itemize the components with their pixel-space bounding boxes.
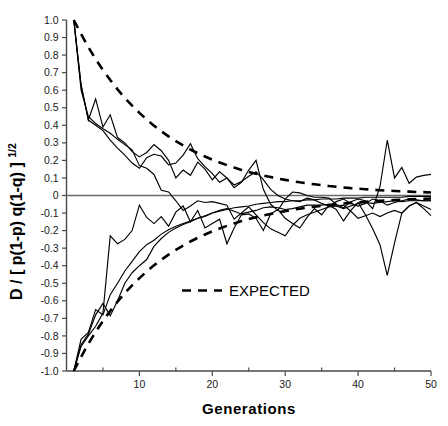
- y-tick-label: -0.8: [40, 330, 58, 342]
- x-axis-ticks: [103, 368, 431, 377]
- y-axis-label-text: D / [ p(1-p) q(1-q) ] 1/2: [6, 143, 25, 300]
- y-tick-label: 0.5: [44, 101, 59, 113]
- chart-plot-svg: 1.00.90.80.70.60.50.40.30.20.10-0.1-0.2-…: [0, 0, 448, 426]
- series-expected-upper: [74, 20, 431, 193]
- y-tick-label: -0.2: [40, 224, 58, 236]
- y-tick-label: 0.3: [44, 136, 59, 148]
- y-tick-label: -0.7: [40, 312, 58, 324]
- y-tick-label: 0.9: [44, 31, 59, 43]
- y-tick-label: -1.0: [40, 365, 58, 377]
- y-tick-label: 1.0: [44, 14, 59, 26]
- x-tick-label: 40: [352, 378, 364, 390]
- legend-label-expected: EXPECTED: [229, 282, 310, 299]
- y-axis-label-exponent: 1/2: [6, 143, 18, 158]
- series-replicate-3: [74, 20, 431, 206]
- y-tick-label: -0.6: [40, 294, 58, 306]
- y-tick-label: -0.9: [40, 347, 58, 359]
- y-tick-label: -0.5: [40, 277, 58, 289]
- y-tick-label: -0.4: [40, 259, 58, 271]
- y-tick-label: 0.8: [44, 49, 59, 61]
- y-tick-label: 0.7: [44, 66, 59, 78]
- x-tick-label: 20: [206, 378, 218, 390]
- chart-legend: EXPECTED: [182, 282, 310, 299]
- y-axis-label: D / [ p(1-p) q(1-q) ] 1/2: [6, 143, 25, 300]
- x-tick-label: 50: [425, 378, 437, 390]
- x-axis-label-text: Generations: [202, 400, 296, 417]
- y-tick-label: 0.6: [44, 84, 59, 96]
- y-tick-label: 0: [53, 189, 59, 201]
- y-tick-label: 0.2: [44, 154, 59, 166]
- y-tick-label: 0.4: [44, 119, 59, 131]
- x-axis: 1020304050: [67, 368, 437, 391]
- x-tick-label: 10: [134, 378, 146, 390]
- y-tick-label: -0.3: [40, 242, 58, 254]
- y-axis-ticks: [62, 20, 67, 371]
- y-tick-label: -0.1: [40, 207, 58, 219]
- y-axis-tick-labels: 1.00.90.80.70.60.50.40.30.20.10-0.1-0.2-…: [40, 14, 58, 377]
- series-replicate-1: [74, 20, 431, 210]
- x-axis-tick-labels: 1020304050: [134, 378, 437, 390]
- series-replicate-2: [74, 20, 431, 236]
- chart-figure: 1.00.90.80.70.60.50.40.30.20.10-0.1-0.2-…: [0, 0, 448, 426]
- x-tick-label: 30: [279, 378, 291, 390]
- y-axis-label-main: D / [ p(1-p) q(1-q) ]: [8, 158, 25, 300]
- y-axis: 1.00.90.80.70.60.50.40.30.20.10-0.1-0.2-…: [40, 14, 66, 377]
- y-tick-label: 0.1: [44, 172, 59, 184]
